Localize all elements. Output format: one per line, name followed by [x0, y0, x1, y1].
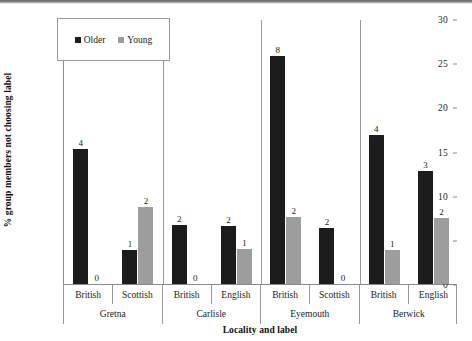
x-axis-label-row: BritishScottishBritishEnglishBritishScot…	[63, 285, 457, 304]
x-axis-label-english: English	[212, 285, 261, 304]
x-axis-label-british: British	[261, 285, 310, 304]
x-axis-locality-gretna: Gretna	[64, 304, 163, 324]
x-axis-label-scottish: Scottish	[113, 285, 162, 304]
y-axis-title: % group members not choosing label	[3, 73, 13, 227]
bar-value-label: 8	[275, 45, 280, 55]
bar	[418, 171, 433, 284]
x-axis-locality-carlisle: Carlisle	[163, 304, 262, 324]
bar	[385, 250, 400, 284]
bar	[369, 135, 384, 284]
group-divider	[261, 20, 262, 284]
x-axis-label-british: British	[64, 285, 113, 304]
legend-label-young: Young	[127, 35, 152, 45]
bar-value-label: 2	[325, 217, 330, 227]
bar	[319, 228, 334, 284]
bar	[237, 249, 252, 284]
x-axis-label-british: British	[163, 285, 212, 304]
bar	[286, 217, 301, 284]
bar-value-label: 2	[144, 196, 149, 206]
legend-swatch-older-icon	[75, 37, 81, 43]
x-axis-locality-eyemouth: Eyemouth	[261, 304, 360, 324]
x-axis-label-british: British	[360, 285, 409, 304]
x-axis-label-english: English	[409, 285, 458, 304]
bar-value-label: 2	[177, 214, 182, 224]
group-divider	[360, 20, 361, 284]
bar	[138, 207, 153, 284]
bar	[73, 149, 88, 284]
bar	[221, 226, 236, 284]
bar-value-label: 4	[374, 124, 379, 134]
x-axis-locality-row: GretnaCarlisleEyemouthBerwick	[63, 304, 457, 324]
bar-value-label: 2	[439, 207, 444, 217]
x-axis-locality-berwick: Berwick	[360, 304, 459, 324]
bar	[434, 218, 449, 284]
bar-value-label: 1	[128, 239, 133, 249]
x-axis-title: Locality and label	[63, 325, 457, 335]
bar-value-label: 0	[341, 273, 346, 283]
legend-item-older: Older	[75, 35, 106, 45]
chart-legend: Older Young	[57, 18, 170, 61]
bar	[172, 225, 187, 284]
bar-value-label: 2	[226, 215, 231, 225]
bar	[270, 56, 285, 284]
bar-value-label: 1	[242, 238, 247, 248]
bar-value-label: 2	[291, 206, 296, 216]
bar-chart: % group members not choosing label 05101…	[0, 0, 472, 341]
legend-label-older: Older	[84, 35, 106, 45]
bar-value-label: 0	[193, 273, 198, 283]
bar-value-label: 0	[94, 273, 99, 283]
legend-swatch-young-icon	[118, 37, 124, 43]
bar-value-label: 3	[423, 160, 428, 170]
legend-item-young: Young	[118, 35, 152, 45]
bar-value-label: 4	[78, 138, 83, 148]
bar	[122, 250, 137, 284]
x-axis-label-scottish: Scottish	[310, 285, 359, 304]
bar-value-label: 1	[390, 239, 395, 249]
